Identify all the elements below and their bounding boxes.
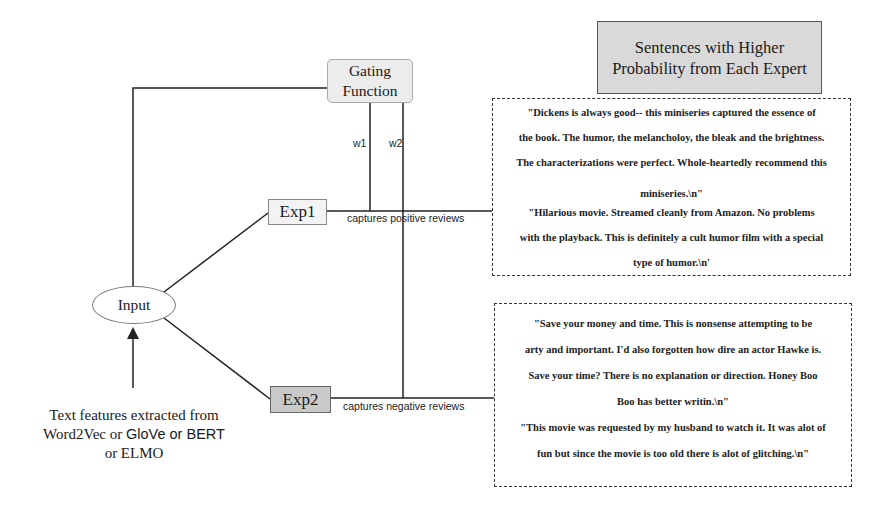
negative-reviews-box: "Save your money and time. This is nonse… bbox=[494, 303, 852, 487]
review-line: Save your time? There is no explanation … bbox=[495, 370, 851, 381]
caption-line-2b: GloVe or BERT bbox=[126, 426, 225, 442]
review-line: "Save your money and time. This is nonse… bbox=[495, 318, 851, 329]
expert-1-node: Exp1 bbox=[268, 199, 327, 225]
review-line: type of humor.\n' bbox=[493, 257, 850, 268]
review-line: miniseries.\n" bbox=[493, 188, 850, 199]
review-line: arty and important. I'd also forgotten h… bbox=[495, 344, 851, 355]
gating-function-node: Gating Function bbox=[327, 59, 413, 103]
exp1-edge-label: captures positive reviews bbox=[347, 212, 464, 224]
input-to-exp1-line bbox=[164, 213, 268, 292]
input-features-caption: Text features extracted from Word2Vec or… bbox=[20, 406, 248, 463]
review-line: "Hilarious movie. Streamed cleanly from … bbox=[493, 207, 850, 218]
caption-line-2: Word2Vec or GloVe or BERT bbox=[20, 425, 248, 444]
review-line: fun but since the movie is too old there… bbox=[495, 448, 851, 459]
input-node: Input bbox=[92, 286, 176, 324]
results-title-box: Sentences with Higher Probability from E… bbox=[597, 21, 822, 94]
input-label: Input bbox=[118, 296, 151, 314]
review-line: "Dickens is always good-- this miniserie… bbox=[493, 107, 850, 118]
caption-line-1: Text features extracted from bbox=[20, 406, 248, 425]
review-line: with the playback. This is definitely a … bbox=[493, 232, 850, 243]
caption-line-2a: Word2Vec or bbox=[43, 426, 126, 442]
input-to-exp2-line bbox=[164, 318, 270, 399]
review-line: Boo has better writin.\n" bbox=[495, 396, 851, 407]
gating-function-label: Gating Function bbox=[328, 61, 412, 101]
w2-label: w2 bbox=[389, 137, 402, 149]
input-to-gating-line bbox=[133, 88, 327, 286]
results-title: Sentences with Higher Probability from E… bbox=[604, 37, 815, 79]
expert-2-label: Exp2 bbox=[283, 390, 319, 410]
expert-2-node: Exp2 bbox=[270, 386, 331, 413]
positive-reviews-box: "Dickens is always good-- this miniserie… bbox=[492, 98, 851, 276]
expert-1-label: Exp1 bbox=[280, 202, 316, 222]
review-line: The characterizations were perfect. Whol… bbox=[493, 157, 850, 168]
exp2-edge-label: captures negative reviews bbox=[343, 400, 464, 412]
review-line: "This movie was requested by my husband … bbox=[495, 422, 851, 433]
w1-label: w1 bbox=[353, 137, 366, 149]
review-line: the book. The humor, the melancholoy, th… bbox=[493, 132, 850, 143]
caption-line-3: or ELMO bbox=[20, 444, 248, 463]
